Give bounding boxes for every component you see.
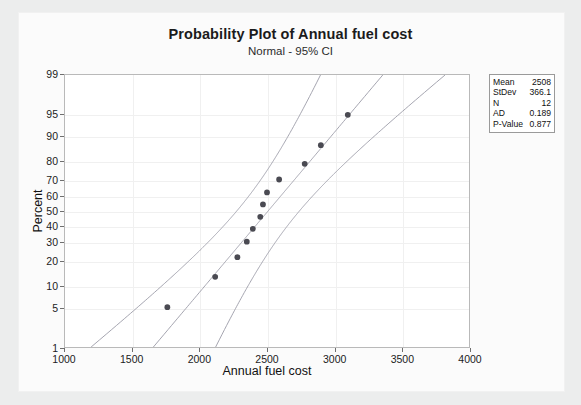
y-axis-tick-label: 90	[30, 130, 58, 142]
statistics-value: 366.1	[529, 87, 551, 97]
data-point	[264, 189, 270, 195]
y-axis-tick-mark	[60, 242, 64, 243]
y-axis-tick-mark	[60, 161, 64, 162]
data-point	[212, 274, 218, 280]
statistics-row: P-Value0.877	[493, 119, 551, 129]
statistics-value: 2508	[532, 77, 551, 87]
statistics-key: N	[493, 98, 502, 108]
statistics-value: 0.877	[529, 119, 551, 129]
statistics-key: AD	[493, 108, 508, 118]
statistics-row: Mean2508	[493, 77, 551, 87]
ci-lower-bound-line	[91, 75, 320, 347]
y-axis-tick-mark	[60, 136, 64, 137]
y-axis-tick-label: 95	[30, 108, 58, 120]
x-axis-tick-mark	[199, 348, 200, 352]
statistics-box: Mean2508StDev366.1N12AD0.189P-Value0.877	[489, 74, 555, 133]
plot-area	[64, 74, 470, 348]
x-axis-tick-mark	[335, 348, 336, 352]
y-axis-tick-label: 5	[30, 302, 58, 314]
data-point	[257, 214, 263, 220]
x-axis-tick-mark	[64, 348, 65, 352]
statistics-key: StDev	[493, 87, 519, 97]
data-point	[260, 202, 266, 208]
x-axis-tick-mark	[132, 348, 133, 352]
statistics-key: P-Value	[493, 119, 526, 129]
statistics-row: N12	[493, 98, 551, 108]
data-point	[345, 112, 351, 118]
data-point	[244, 239, 250, 245]
y-axis-tick-mark	[60, 180, 64, 181]
y-axis-tick-mark	[60, 286, 64, 287]
data-point	[276, 177, 282, 183]
y-axis-tick-mark	[60, 114, 64, 115]
data-point	[234, 254, 240, 260]
statistics-key: Mean	[493, 77, 518, 87]
statistics-row: StDev366.1	[493, 87, 551, 97]
ci-upper-bound-line	[216, 75, 445, 347]
y-axis-tick-label: 10	[30, 280, 58, 292]
x-axis-tick-mark	[470, 348, 471, 352]
data-point	[318, 142, 324, 148]
x-axis-title: Annual fuel cost	[64, 364, 470, 378]
data-point	[250, 226, 256, 232]
x-axis-tick-mark	[402, 348, 403, 352]
x-axis-tick-mark	[267, 348, 268, 352]
statistics-value: 12	[541, 98, 551, 108]
y-axis-tick-label: 30	[30, 236, 58, 248]
y-axis-tick-mark	[60, 308, 64, 309]
y-axis-tick-label: 70	[30, 174, 58, 186]
y-axis-tick-mark	[60, 226, 64, 227]
y-axis-title: Percent	[31, 189, 45, 232]
data-point	[302, 161, 308, 167]
y-axis-tick-mark	[60, 196, 64, 197]
screenshot-root: Probability Plot of Annual fuel cost Nor…	[0, 0, 581, 405]
chart-title: Probability Plot of Annual fuel cost	[18, 26, 563, 42]
y-axis-tick-label: 20	[30, 255, 58, 267]
y-axis-tick-label: 80	[30, 155, 58, 167]
y-axis-tick-mark	[60, 74, 64, 75]
data-point	[164, 304, 170, 310]
chart-subtitle: Normal - 95% CI	[18, 45, 563, 57]
y-axis-tick-mark	[60, 211, 64, 212]
statistics-value: 0.189	[529, 108, 551, 118]
plot-data-layer	[65, 75, 469, 347]
statistics-row: AD0.189	[493, 108, 551, 118]
probability-plot-figure: Probability Plot of Annual fuel cost Nor…	[18, 12, 563, 390]
y-axis-tick-label: 99	[30, 68, 58, 80]
y-axis-tick-mark	[60, 261, 64, 262]
